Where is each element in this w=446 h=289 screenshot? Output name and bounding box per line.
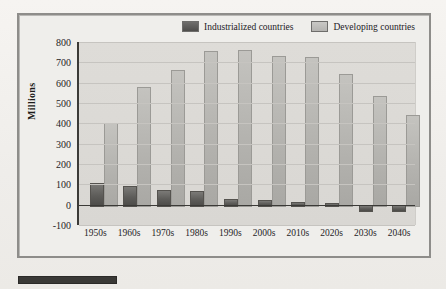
bar-group <box>146 42 180 225</box>
x-axis-tick-label: 2030s <box>349 228 383 238</box>
bar-group <box>179 42 213 225</box>
bar-group <box>112 42 146 225</box>
y-axis-tick-label: 200 <box>56 159 71 170</box>
legend-entry-developing: Developing countries <box>311 21 415 32</box>
x-axis-tick-label: 2010s <box>281 228 315 238</box>
bar-group <box>213 42 247 225</box>
zero-axis-line <box>79 205 416 207</box>
bar-groups <box>79 42 416 225</box>
gridline <box>79 42 416 43</box>
y-axis-tick-label: 100 <box>56 179 71 190</box>
plot-wrapper: Millions 8007006005004003002001000-100 1… <box>32 42 416 247</box>
caption-rule <box>18 276 117 284</box>
gridline <box>79 103 416 104</box>
bar-group <box>314 42 348 225</box>
gridline <box>79 62 416 63</box>
x-axis-tick-label: 1960s <box>112 228 146 238</box>
x-axis-tick-label: 1950s <box>79 228 113 238</box>
y-axis-tick-label: 400 <box>56 118 71 129</box>
bar-group <box>381 42 415 225</box>
y-axis-tick-label: -100 <box>53 220 71 231</box>
legend-label-industrialized: Industrialized countries <box>204 22 293 32</box>
legend-label-developing: Developing countries <box>333 22 415 32</box>
x-axis-tick-labels: 1950s1960s1970s1980s1990s2000s2010s2020s… <box>79 228 417 238</box>
gridline <box>79 225 416 226</box>
chart-legend: Industrialized countries Developing coun… <box>19 21 429 32</box>
gridline <box>79 164 416 165</box>
dark-swatch-icon <box>182 21 199 32</box>
gridline <box>79 144 416 145</box>
bar-industrialized <box>90 183 104 206</box>
bar-group <box>280 42 314 225</box>
x-axis-tick-label: 1990s <box>214 228 248 238</box>
y-axis-tick-label: 600 <box>56 77 71 88</box>
bar-group <box>79 42 113 225</box>
bar-group <box>348 42 382 225</box>
bar-developing <box>406 115 420 206</box>
light-swatch-icon <box>311 21 328 32</box>
gridline <box>79 184 416 185</box>
x-axis-tick-label: 2000s <box>247 228 281 238</box>
legend-entry-industrialized: Industrialized countries <box>182 21 293 32</box>
gridline <box>79 83 416 84</box>
x-axis-tick-label: 1980s <box>180 228 214 238</box>
y-axis-tick-label: 500 <box>56 98 71 109</box>
bar-industrialized <box>123 186 137 206</box>
y-axis-tick-labels: 8007006005004003002001000-100 <box>44 42 74 247</box>
x-axis-tick-label: 1970s <box>146 228 180 238</box>
gridline <box>79 123 416 124</box>
x-axis-tick-label: 2040s <box>382 228 416 238</box>
plot-area <box>79 42 417 225</box>
y-axis-tick-label: 300 <box>56 138 71 149</box>
y-axis-title: Millions <box>26 83 37 120</box>
x-axis-tick-label: 2020s <box>315 228 349 238</box>
y-axis-tick-label: 0 <box>66 199 71 210</box>
y-axis-tick-label: 800 <box>56 37 71 48</box>
bar-group <box>247 42 281 225</box>
chart-figure-frame: Industrialized countries Developing coun… <box>17 13 431 258</box>
scanned-page-background: Industrialized countries Developing coun… <box>0 0 446 289</box>
y-axis-tick-label: 700 <box>56 57 71 68</box>
